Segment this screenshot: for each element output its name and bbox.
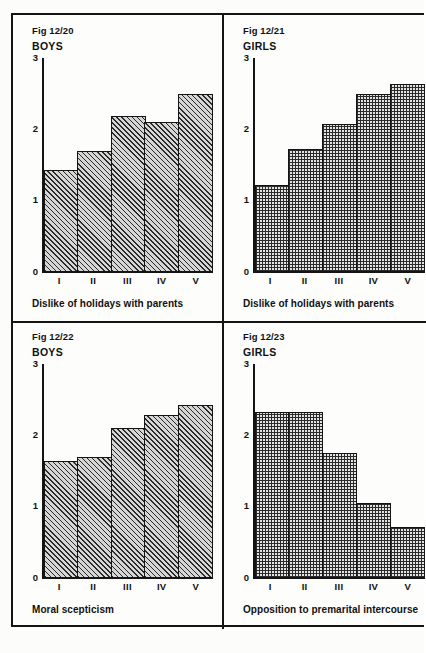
y-tick-0: 0 [244,573,249,583]
x-axis-line [42,272,213,274]
x-tick-label: III [110,275,144,286]
bar-group-3 [255,364,426,578]
chart-caption: Dislike of holidays with parents [243,298,394,309]
bar [322,453,357,578]
y-tick-3: 3 [244,359,249,369]
bar [390,527,425,578]
x-axis-labels-0: I II III IV V [42,275,213,286]
chart-panel-bottom-left: Fig 12/22 BOYS 3 2 1 0 I II [13,323,224,629]
y-tick-3: 3 [33,53,38,63]
plot-area-1: 3 2 1 0 [253,58,425,273]
bar [77,457,112,577]
y-tick-1: 1 [33,502,38,512]
y-tick-0: 0 [33,267,38,277]
chart-caption: Opposition to premarital intercourse [243,604,418,615]
bar-group-0 [44,58,214,272]
x-axis-labels-1: I II III IV V [253,275,425,286]
x-tick-label: III [322,581,356,592]
bar [44,461,79,578]
bar [322,124,357,271]
x-tick-label: IV [356,275,390,286]
bar [44,170,79,272]
x-tick-label: V [179,581,213,592]
group-label: BOYS [32,346,63,358]
plot-area-2: 3 2 1 0 [42,364,213,579]
x-tick-label: V [179,275,213,286]
bar [390,84,425,272]
x-tick-label: I [42,581,76,592]
y-tick-2: 2 [244,430,249,440]
figure-id-label: Fig 12/21 [243,25,285,36]
bar [144,122,179,271]
bar [356,503,391,578]
x-tick-label: I [42,275,76,286]
figure-id-label: Fig 12/23 [243,331,285,342]
bar [255,412,290,578]
x-tick-label: I [253,581,287,592]
group-label: GIRLS [243,40,277,52]
bar [288,412,323,578]
x-tick-label: IV [145,275,179,286]
x-axis-labels-2: I II III IV V [42,581,213,592]
y-tick-0: 0 [244,267,249,277]
y-tick-1: 1 [244,502,249,512]
x-tick-label: IV [356,581,390,592]
y-tick-2: 2 [33,124,38,134]
x-tick-label: I [253,275,287,286]
x-tick-label: V [391,581,425,592]
y-tick-1: 1 [244,196,249,206]
figure-frame: Fig 12/20 BOYS 3 2 1 0 I II [11,13,424,627]
bar [111,428,146,577]
x-tick-label: II [287,581,321,592]
chart-caption: Dislike of holidays with parents [32,298,183,309]
bar [77,151,112,271]
bar [144,415,179,577]
bar [255,185,290,271]
bar [288,149,323,271]
x-axis-labels-3: I II III IV V [253,581,425,592]
x-tick-label: IV [145,581,179,592]
y-tick-3: 3 [244,53,249,63]
bar [356,94,391,272]
bar [111,116,146,271]
bar-group-2 [44,364,214,578]
plot-area-0: 3 2 1 0 [42,58,213,273]
figure-id-label: Fig 12/20 [32,25,74,36]
x-tick-label: III [110,581,144,592]
bar-group-1 [255,58,426,272]
x-axis-line [42,578,213,580]
x-tick-label: V [391,275,425,286]
x-axis-line [253,272,425,274]
chart-caption: Moral scepticism [32,604,114,615]
x-tick-label: III [322,275,356,286]
bar [178,405,213,578]
bar [178,94,213,272]
x-tick-label: II [287,275,321,286]
figure-id-label: Fig 12/22 [32,331,74,342]
y-tick-2: 2 [244,124,249,134]
group-label: BOYS [32,40,63,52]
chart-panel-top-left: Fig 12/20 BOYS 3 2 1 0 I II [13,15,224,323]
chart-panel-top-right: Fig 12/21 GIRLS 3 2 1 0 I II [224,15,426,323]
y-tick-0: 0 [33,573,38,583]
y-tick-1: 1 [33,196,38,206]
y-tick-2: 2 [33,430,38,440]
x-tick-label: II [76,275,110,286]
plot-area-3: 3 2 1 0 [253,364,425,579]
group-label: GIRLS [243,346,277,358]
x-tick-label: II [76,581,110,592]
x-axis-line [253,578,425,580]
y-tick-3: 3 [33,359,38,369]
chart-panel-bottom-right: Fig 12/23 GIRLS 3 2 1 0 I II [224,323,426,629]
